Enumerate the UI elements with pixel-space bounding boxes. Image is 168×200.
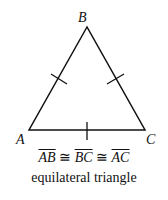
congruent-symbol: ≅ (59, 150, 71, 165)
segment-ab: AB (39, 150, 56, 165)
congruence-statement: AB ≅ BC ≅ AC (0, 150, 168, 166)
tick-bc (107, 74, 124, 84)
caption: equilateral triangle (0, 170, 168, 186)
triangle (29, 27, 145, 130)
vertex-label-c: C (146, 133, 155, 147)
vertex-label-b: B (78, 11, 87, 25)
congruent-symbol: ≅ (96, 150, 108, 165)
segment-ac: AC (112, 150, 130, 165)
vertex-label-a: A (16, 133, 25, 147)
segment-bc: BC (75, 150, 93, 165)
